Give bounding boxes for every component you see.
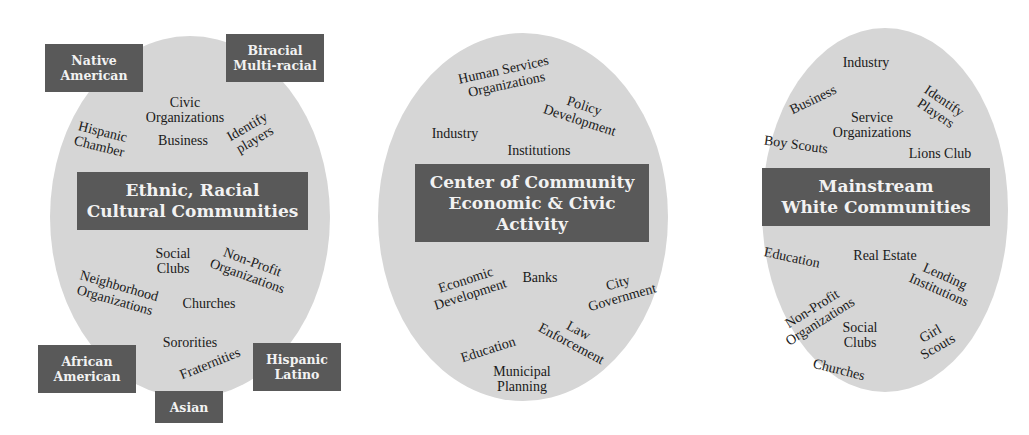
label-industry: Industry <box>422 126 488 141</box>
ethnic-communities-title: Ethnic, Racial Cultural Communities <box>77 172 308 230</box>
label-service-organizations: Service Organizations <box>822 110 922 140</box>
group-hispanic-latino: Hispanic Latino <box>253 343 341 391</box>
label-banks: Banks <box>515 270 565 285</box>
label-municipal-planning: Municipal Planning <box>482 364 562 394</box>
label-churches: Churches <box>174 296 244 311</box>
label-social-clubs: Social Clubs <box>148 246 198 276</box>
label-civic-organizations: Civic Organizations <box>130 95 240 125</box>
group-biracial-multiracial: Biracial Multi-racial <box>226 34 324 82</box>
label-business: Business <box>148 133 218 148</box>
center-community-title: Center of Community Economic & Civic Act… <box>415 164 649 242</box>
group-native-american: Native American <box>45 44 143 92</box>
label-sororities: Sororities <box>150 335 230 350</box>
group-african-american: African American <box>38 345 136 393</box>
label-institutions: Institutions <box>494 143 584 158</box>
label-lions-club: Lions Club <box>897 146 983 161</box>
label-industry: Industry <box>831 55 901 70</box>
label-social-clubs: Social Clubs <box>832 320 888 350</box>
group-asian: Asian <box>155 391 223 423</box>
mainstream-communities-title: Mainstream White Communities <box>762 168 990 226</box>
